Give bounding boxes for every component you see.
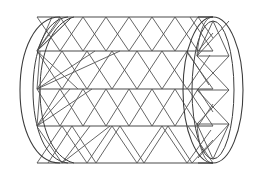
band-3-mesh	[37, 89, 213, 126]
left-end-cap	[20, 17, 74, 163]
left-cap-spoke-3	[37, 51, 40, 89]
cylinder-wireframe-diagram	[0, 0, 269, 177]
band-4-mesh	[37, 126, 213, 163]
right-end-cap	[183, 17, 243, 163]
left-cap-spoke-4	[37, 89, 40, 126]
figure-root: Triangulated cylindrical lattice (tube) …	[0, 0, 269, 177]
band-2-diag-left-c	[37, 51, 78, 89]
left-cap-spoke-5	[38, 128, 62, 163]
band-horizontal-lines	[37, 17, 213, 163]
